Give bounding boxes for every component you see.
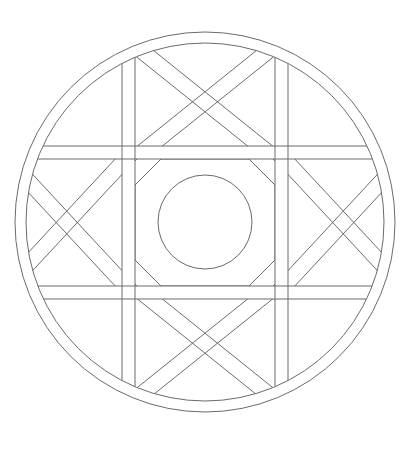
diagonal-top-nesw-edge-b (130, 42, 292, 172)
vertical-band-right (275, 20, 288, 430)
arc-bottom (148, 242, 262, 299)
diagonal-top-nesw-edge-a (120, 30, 282, 160)
cell-top-group (118, 30, 292, 203)
illustration-canvas (0, 0, 415, 449)
center-chamfer-tr (260, 146, 288, 174)
outer-ring-group (15, 32, 395, 412)
horizontal-band-top (10, 146, 410, 159)
horizontal-band-bottom (10, 286, 410, 299)
cell-bottom-group (118, 242, 292, 415)
diagonal-left-swne-edge-a (10, 155, 140, 295)
outer-circle-inner-edge (26, 43, 384, 401)
diagonal-bottom-swne-edge-b (118, 273, 280, 403)
arc-left (122, 172, 153, 273)
arc-right (257, 172, 288, 273)
center-chamfer-tl (122, 146, 150, 174)
center-chamfer-br (260, 271, 288, 299)
diagonal-bottom-swne-edge-a (128, 285, 290, 415)
lattice-group (10, 20, 410, 430)
diagonal-right-senw-edge-a (270, 155, 400, 295)
diagonal-left-nwse-edge-a (10, 150, 140, 290)
outer-circle-outer-edge (15, 32, 395, 412)
diagonal-top-nwse-edge-b (118, 42, 280, 172)
center-circle (158, 175, 252, 269)
mandala-drawing (0, 0, 415, 449)
diagonal-bottom-senw-edge-a (120, 285, 282, 415)
center-octagon (135, 159, 275, 286)
diagonal-bottom-senw-edge-b (130, 273, 292, 403)
center-chamfer-bl (122, 271, 150, 299)
center-motif-group (122, 146, 288, 299)
diagonal-top-nwse-edge-a (128, 30, 290, 160)
diagonal-right-nesw-edge-a (270, 150, 400, 290)
vertical-band-left (122, 20, 135, 430)
